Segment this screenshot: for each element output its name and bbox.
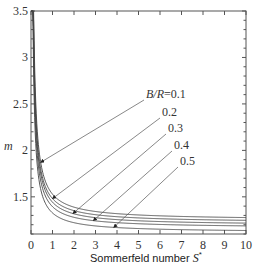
curve-annotations: B/R=0.10.20.30.40.5 — [41, 87, 195, 227]
curve-b-r-0-3 — [31, 11, 246, 223]
annotation-arrow — [53, 118, 161, 199]
annotation-label: 0.4 — [174, 138, 189, 152]
annotation-label: B/R=0.1 — [146, 87, 186, 101]
chart: 0123456789101.522.533.5 B/R=0.10.20.30.4… — [0, 0, 257, 269]
annotation-arrow — [73, 134, 166, 214]
y-tick-label: 2 — [22, 143, 28, 157]
curve-b-r-0-5 — [31, 11, 246, 231]
y-tick-label: 1.5 — [13, 190, 28, 204]
y-axis-title: m — [4, 139, 13, 153]
y-tick-label: 3.5 — [13, 4, 28, 18]
x-axis-title: Sommerfeld number S* — [90, 250, 202, 265]
x-tick-label: 6 — [157, 238, 163, 252]
annotation-label: 0.5 — [180, 154, 195, 168]
curve-b-r-0-2 — [31, 11, 246, 220]
x-tick-label: 7 — [179, 238, 185, 252]
curve-b-r-0-1 — [31, 11, 246, 218]
x-tick-label: 2 — [71, 238, 77, 252]
plot-frame — [31, 11, 246, 234]
data-curves — [31, 11, 246, 231]
x-tick-label: 3 — [93, 238, 99, 252]
y-tick-label: 2.5 — [13, 97, 28, 111]
annotation-arrow — [41, 100, 144, 162]
x-tick-label: 9 — [222, 238, 228, 252]
annotation-label: 0.2 — [162, 105, 177, 119]
x-tick-label: 1 — [50, 238, 56, 252]
x-tick-label: 0 — [28, 238, 34, 252]
x-tick-label: 5 — [136, 238, 142, 252]
x-tick-label: 10 — [240, 238, 252, 252]
y-tick-label: 3 — [22, 50, 28, 64]
curve-b-r-0-4 — [31, 11, 246, 226]
annotation-label: 0.3 — [168, 121, 183, 135]
x-tick-label: 4 — [114, 238, 120, 252]
